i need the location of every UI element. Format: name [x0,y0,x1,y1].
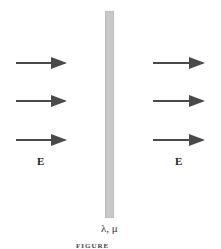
dielectric-slab [105,11,114,218]
incident-field-label: E [37,155,44,167]
transmitted-field-label: E [175,155,182,167]
slab-material-label: λ, μ [101,222,118,234]
figure-caption: FIGURE [76,242,109,249]
